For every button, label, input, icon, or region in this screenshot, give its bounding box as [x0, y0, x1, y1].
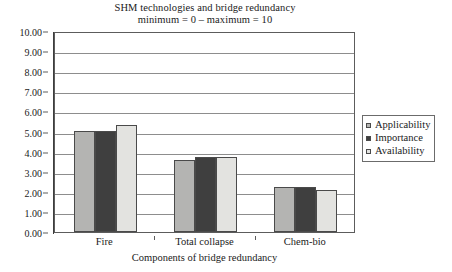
legend-label: Applicability [375, 120, 430, 131]
bar [195, 157, 216, 232]
y-axis-tick-label: 5.00 [25, 127, 43, 138]
y-axis-tick-mark [43, 192, 48, 193]
legend-swatch-icon [366, 136, 371, 141]
x-axis-tick-mark [154, 236, 155, 240]
bar [116, 125, 137, 232]
y-axis-tick-mark [43, 152, 48, 153]
y-axis-tick-label: 6.00 [25, 107, 43, 118]
legend-swatch-icon [366, 123, 371, 128]
y-axis-tick-label: 4.00 [25, 147, 43, 158]
y-axis-labels: 0.001.002.003.004.005.006.007.008.009.00… [0, 32, 48, 233]
y-axis-tick-label: 8.00 [25, 67, 43, 78]
y-axis-tick-mark [43, 212, 48, 213]
y-axis-tick-label: 2.00 [25, 187, 43, 198]
legend-item: Applicability [366, 119, 430, 132]
bar [174, 160, 195, 232]
legend-swatch-icon [366, 149, 371, 154]
legend-label: Importance [375, 133, 423, 144]
chart-title-block: SHM technologies and bridge redundancy m… [54, 2, 356, 27]
x-axis-tick-label: Fire [96, 236, 113, 247]
bar [95, 131, 116, 233]
x-axis-tick-label: Total collapse [175, 236, 233, 247]
legend-label: Availability [375, 146, 424, 157]
chart-title: SHM technologies and bridge redundancy [54, 2, 356, 14]
y-axis-tick-label: 7.00 [25, 87, 43, 98]
y-axis-tick-label: 9.00 [25, 47, 43, 58]
x-axis-title: Components of bridge redundancy [54, 252, 355, 263]
y-axis-tick-mark [43, 52, 48, 53]
y-axis-tick-mark [43, 132, 48, 133]
plot-area [54, 32, 355, 233]
y-axis-tick-label: 10.00 [20, 27, 43, 38]
bar [295, 187, 316, 232]
y-axis-tick-mark [43, 233, 48, 234]
y-axis-tick-mark [43, 92, 48, 93]
y-axis-tick-mark [43, 72, 48, 73]
bar-chart-figure: SHM technologies and bridge redundancy m… [0, 0, 452, 272]
x-axis-labels: FireTotal collapseChem-bio [54, 236, 355, 252]
y-axis-tick-mark [43, 112, 48, 113]
y-axis-tick-label: 3.00 [25, 167, 43, 178]
y-axis-tick-label: 1.00 [25, 207, 43, 218]
bar [316, 190, 337, 232]
y-axis-tick-mark [43, 32, 48, 33]
bar [216, 157, 237, 232]
y-axis-tick-label: 0.00 [25, 228, 43, 239]
chart-subtitle: minimum = 0 – maximum = 10 [54, 14, 356, 26]
y-axis-tick-mark [43, 172, 48, 173]
legend-item: Importance [366, 132, 430, 145]
legend-item: Availability [366, 145, 430, 158]
chart-legend: ApplicabilityImportanceAvailability [362, 115, 435, 162]
bar [274, 187, 295, 232]
bar [74, 131, 95, 233]
x-axis-tick-mark [255, 236, 256, 240]
bars-layer [55, 33, 354, 232]
x-axis-tick-label: Chem-bio [284, 236, 326, 247]
